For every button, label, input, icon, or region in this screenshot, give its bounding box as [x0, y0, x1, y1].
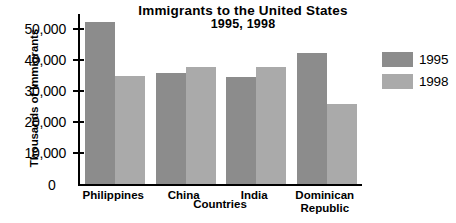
y-tick-label-40000: 40,000 — [24, 52, 66, 68]
legend-swatch-1998 — [382, 74, 413, 89]
bar-1995-philippines — [85, 22, 115, 184]
bars-layer — [80, 14, 362, 184]
bar-1998-india — [256, 67, 286, 184]
bar-1995-dominican-republic — [297, 53, 327, 184]
legend-item-1995: 1995 — [382, 52, 448, 67]
legend-item-1998: 1998 — [382, 74, 448, 89]
y-tick-label-50000: 50,000 — [24, 21, 66, 37]
y-tick-label-30000: 30,000 — [24, 83, 66, 99]
y-tick-label-20000: 20,000 — [24, 114, 66, 130]
bar-1995-china — [156, 73, 186, 184]
bar-1998-china — [186, 67, 216, 184]
plot-area: 010,00020,00030,00040,00050,000 Philippi… — [78, 14, 362, 184]
legend-swatch-1995 — [382, 52, 413, 67]
y-tick-label-0: 0 — [48, 177, 56, 193]
bar-1998-dominican-republic — [327, 104, 357, 184]
legend-label-1995: 1995 — [419, 52, 448, 67]
bar-chart: Immigrants to the United States 1995, 19… — [0, 0, 456, 223]
legend-label-1998: 1998 — [419, 74, 448, 89]
y-tick-label-10000: 10,000 — [24, 145, 66, 161]
bar-1995-india — [226, 77, 256, 184]
x-axis-line — [78, 184, 362, 186]
bar-1998-philippines — [115, 76, 145, 184]
chart-legend: 19951998 — [382, 52, 448, 96]
x-axis-title: Countries — [78, 198, 362, 210]
